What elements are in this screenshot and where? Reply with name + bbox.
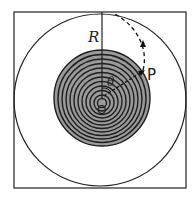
label-radius: R [87,28,99,46]
spiral-diagram: R P θ O [0,0,196,202]
label-point-p: P [147,66,156,84]
label-origin: O [97,103,106,117]
label-angle-theta: θ [107,75,115,89]
